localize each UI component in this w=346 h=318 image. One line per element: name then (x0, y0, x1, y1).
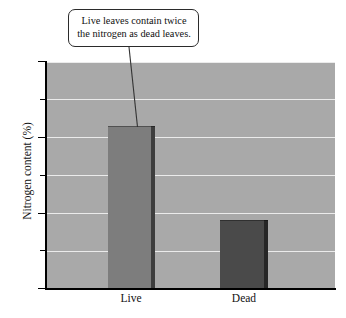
gridline-1.0 (45, 213, 335, 214)
y-axis-line (45, 61, 47, 289)
x-tick-label-dead: Dead (204, 292, 284, 304)
gridline-0.5 (45, 251, 335, 252)
gridline-3.0 (45, 62, 335, 63)
y-tick-2.5 (40, 99, 45, 100)
bar-dead[interactable] (220, 220, 268, 288)
bar-live-face (108, 126, 151, 288)
bar-dead-face (220, 220, 264, 288)
y-tick-1.5 (40, 175, 45, 176)
gridline-2.5 (45, 99, 335, 100)
bar-chart-figure: 3 2 1 0 Nitrogen content (%) Live Dead L… (0, 0, 346, 318)
bar-live-top-edge (108, 126, 155, 127)
x-axis-line (45, 288, 336, 290)
y-tick-0.5 (40, 250, 45, 251)
y-tick-1 (38, 213, 45, 214)
callout-text: Live leaves contain twice the nitrogen a… (75, 15, 193, 40)
gridline-2.0 (45, 137, 335, 138)
y-tick-3 (38, 61, 45, 62)
x-tick-label-live: Live (91, 292, 171, 304)
plot-area (45, 62, 335, 288)
bar-live-side (151, 126, 155, 288)
bar-live[interactable] (108, 126, 155, 288)
bar-dead-top-edge (220, 220, 268, 221)
gridline-1.5 (45, 175, 335, 176)
bar-dead-side (264, 220, 268, 288)
callout-box: Live leaves contain twice the nitrogen a… (68, 9, 199, 47)
y-axis-title: Nitrogen content (%) (21, 91, 33, 251)
y-tick-0 (38, 288, 45, 289)
y-tick-2 (38, 137, 45, 138)
